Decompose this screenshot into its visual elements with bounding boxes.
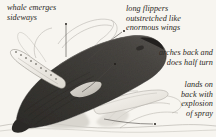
annotation-long-flippers-outstretched: long flippers outstretched like enormous…	[126, 4, 181, 33]
annotation-line: whale emerges	[7, 3, 56, 13]
annotation-whale-emerges-sideways: whale emerges sideways	[7, 3, 56, 22]
annotation-line: long flippers	[126, 4, 181, 14]
whale-diagram-figure: whale emerges sideways long flippers out…	[0, 0, 216, 137]
annotation-line: sideways	[7, 13, 56, 23]
annotation-line: back with	[181, 90, 213, 100]
annotation-line: explosion	[181, 99, 213, 109]
annotation-lands-on-back-explosion-of-spray: lands on back with explosion of spray	[181, 80, 213, 118]
annotation-arches-back-half-turn: arches back and does half turn	[159, 48, 213, 67]
annotation-line: does half turn	[159, 58, 213, 68]
annotation-line: arches back and	[159, 48, 213, 58]
annotation-line: lands on	[181, 80, 213, 90]
annotation-line: outstretched like	[126, 14, 181, 24]
annotation-line: of spray	[181, 109, 213, 119]
annotation-line: enormous wings	[126, 23, 181, 33]
